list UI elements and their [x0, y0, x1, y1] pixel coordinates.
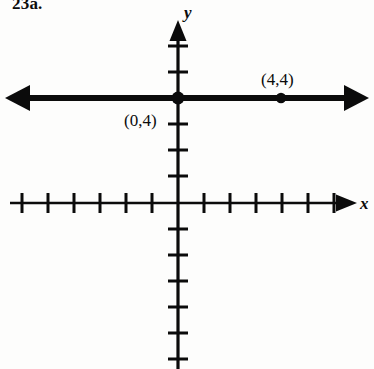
x-axis-group: x [10, 193, 369, 213]
point-label-0-4: (0,4) [124, 111, 157, 130]
plotted-line-right-arrowhead-icon [344, 85, 369, 111]
plotted-line-left-arrowhead-icon [5, 85, 30, 111]
data-point-0-4 [172, 92, 185, 105]
point-label-4-4: (4,4) [261, 70, 294, 89]
graph-figure: 23a. [0, 0, 374, 369]
x-axis-label: x [359, 194, 369, 213]
plotted-line-group [5, 85, 369, 111]
y-axis-group: y [168, 3, 192, 369]
x-axis-arrowhead-icon [336, 195, 357, 212]
coordinate-plane-graph: y [0, 0, 374, 369]
y-axis-label: y [182, 3, 192, 22]
data-point-4-4 [276, 93, 286, 103]
y-axis-arrowhead-icon [170, 20, 187, 41]
